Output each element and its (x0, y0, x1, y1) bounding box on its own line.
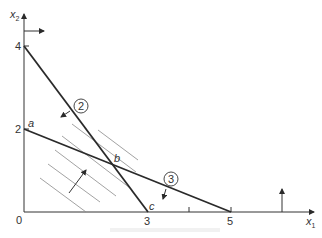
x-tick-5: 5 (227, 215, 233, 227)
y-tick-2: 2 (15, 123, 21, 135)
x-tick-3: 3 (144, 215, 150, 227)
figure-caption-faint (110, 228, 220, 232)
constraint-2-arrow-icon (61, 111, 70, 117)
constraint-2-label: 2 (78, 100, 84, 112)
point-c-label: c (149, 200, 155, 212)
constraint-3-label: 3 (168, 173, 174, 185)
point-b-label: b (114, 152, 120, 164)
lp-diagram: 2 3 a b c 4 2 0 3 5 x1 x2 (0, 0, 322, 238)
y-tick-4: 4 (15, 40, 21, 52)
point-a-label: a (28, 117, 34, 129)
x2-axis-label: x2 (9, 8, 20, 22)
x1-axis-label: x1 (305, 215, 316, 229)
constraint-2-line (24, 46, 148, 212)
origin-label: 0 (16, 214, 22, 226)
constraint-3-line (24, 129, 231, 212)
constraint-3-arrow-icon (163, 189, 166, 199)
